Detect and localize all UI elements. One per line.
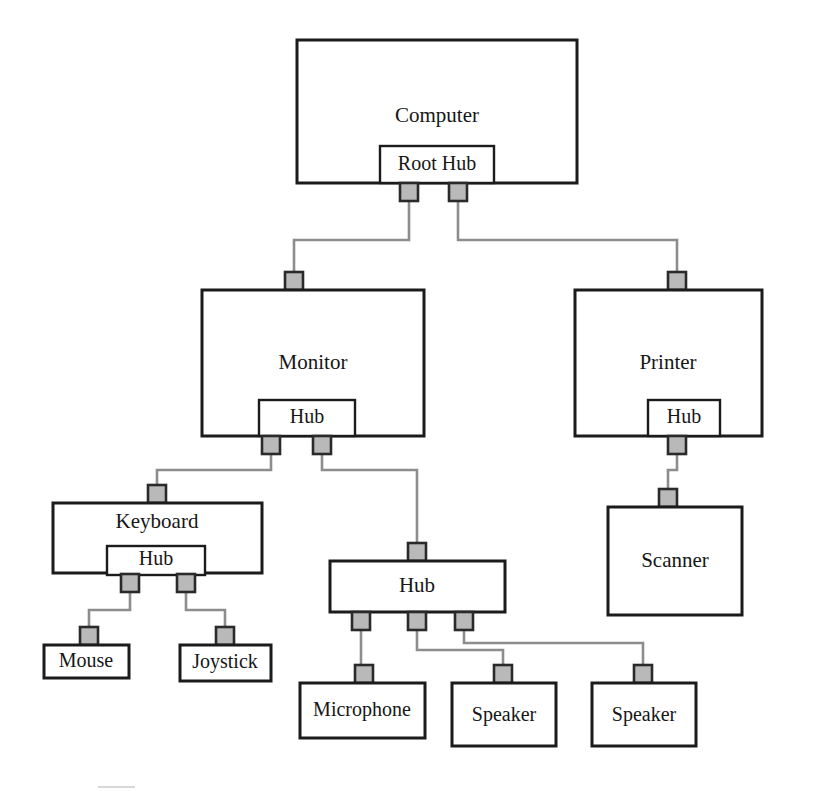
- node-scanner[interactable]: Scanner: [608, 489, 742, 615]
- mouse-upstream-port[interactable]: [80, 627, 98, 645]
- root-hub-port-2[interactable]: [449, 183, 467, 201]
- node-hub-standalone[interactable]: Hub: [330, 543, 505, 630]
- keyboard-hub-label: Hub: [139, 547, 173, 569]
- keyboard-hub-port-2[interactable]: [177, 574, 195, 592]
- wire-printerhub-to-scanner: [668, 454, 677, 489]
- keyboard-label: Keyboard: [116, 509, 199, 533]
- node-monitor[interactable]: Monitor Hub: [202, 272, 424, 454]
- hub-standalone-port-1[interactable]: [352, 612, 370, 630]
- wire-hub-to-speaker-1: [417, 630, 503, 665]
- wire-roothub-to-monitor: [294, 201, 409, 272]
- wire-keyboardhub-to-joystick: [186, 592, 225, 627]
- computer-label: Computer: [395, 103, 479, 127]
- speaker-1-label: Speaker: [472, 703, 537, 726]
- monitor-hub-port-2[interactable]: [313, 436, 331, 454]
- monitor-hub-label: Hub: [290, 405, 324, 427]
- scanner-label: Scanner: [641, 548, 709, 572]
- node-joystick[interactable]: Joystick: [180, 627, 271, 681]
- keyboard-upstream-port[interactable]: [148, 485, 166, 503]
- usb-topology-diagram: Computer Root Hub Monitor Hub Printer Hu…: [0, 0, 815, 791]
- hub-standalone-label: Hub: [399, 573, 435, 597]
- wire-monitorhub-to-hub: [322, 454, 417, 543]
- speaker-1-upstream-port[interactable]: [494, 665, 512, 683]
- microphone-upstream-port[interactable]: [355, 665, 373, 683]
- topology-canvas: Computer Root Hub Monitor Hub Printer Hu…: [0, 0, 815, 791]
- speaker-2-label: Speaker: [612, 703, 677, 726]
- node-computer[interactable]: Computer Root Hub: [297, 40, 577, 201]
- node-keyboard[interactable]: Keyboard Hub: [53, 485, 262, 592]
- node-speaker-2[interactable]: Speaker: [592, 665, 696, 746]
- hub-standalone-port-2[interactable]: [408, 612, 426, 630]
- joystick-label: Joystick: [192, 650, 258, 673]
- node-microphone[interactable]: Microphone: [300, 665, 425, 738]
- wire-monitorhub-to-keyboard: [157, 454, 271, 485]
- node-speaker-1[interactable]: Speaker: [452, 665, 556, 746]
- hub-standalone-upstream-port[interactable]: [408, 543, 426, 561]
- hub-standalone-port-3[interactable]: [455, 612, 473, 630]
- wire-roothub-to-printer: [458, 201, 677, 272]
- wire-keyboardhub-to-mouse: [89, 592, 130, 627]
- printer-upstream-port[interactable]: [668, 272, 686, 290]
- wire-hub-to-speaker-2: [464, 630, 643, 665]
- monitor-upstream-port[interactable]: [285, 272, 303, 290]
- monitor-hub-port-1[interactable]: [262, 436, 280, 454]
- mouse-label: Mouse: [59, 649, 114, 671]
- printer-hub-label: Hub: [667, 405, 701, 427]
- keyboard-hub-port-1[interactable]: [121, 574, 139, 592]
- printer-hub-port-1[interactable]: [668, 436, 686, 454]
- node-mouse[interactable]: Mouse: [44, 627, 129, 678]
- microphone-label: Microphone: [313, 698, 411, 721]
- printer-label: Printer: [639, 350, 696, 374]
- scanner-upstream-port[interactable]: [659, 489, 677, 507]
- node-printer[interactable]: Printer Hub: [575, 272, 762, 454]
- joystick-upstream-port[interactable]: [216, 627, 234, 645]
- monitor-label: Monitor: [279, 350, 348, 374]
- root-hub-port-1[interactable]: [400, 183, 418, 201]
- speaker-2-upstream-port[interactable]: [634, 665, 652, 683]
- root-hub-label: Root Hub: [398, 152, 476, 174]
